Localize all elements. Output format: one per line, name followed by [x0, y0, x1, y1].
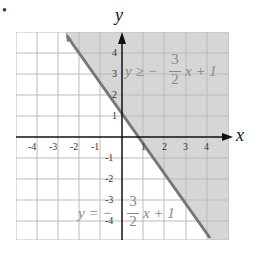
boundary-left: y = −	[78, 205, 112, 222]
x-tick: 4	[204, 142, 209, 152]
x-tick: 2	[162, 142, 167, 152]
inequality-left: y ≥ −	[125, 63, 158, 80]
x-tick: 1	[141, 142, 146, 152]
y-tick: 4	[112, 48, 117, 58]
y-tick: 1	[112, 111, 117, 121]
inequality-num: 3	[169, 52, 181, 66]
x-tick: -3	[49, 142, 57, 152]
x-tick: -4	[28, 142, 36, 152]
y-tick: -1	[105, 153, 113, 163]
y-tick: 2	[112, 90, 117, 100]
x-axis-label: x	[236, 125, 244, 146]
y-tick: -2	[105, 174, 113, 184]
inequality-den: 2	[169, 72, 181, 86]
y-tick: -3	[105, 195, 113, 205]
boundary-right: x + 1	[143, 205, 175, 222]
x-tick: -2	[70, 142, 78, 152]
y-axis-label: y	[115, 5, 123, 26]
x-tick: -1	[91, 142, 99, 152]
y-tick: 3	[112, 69, 117, 79]
x-tick: 3	[183, 142, 188, 152]
inequality-right: x + 1	[185, 63, 217, 80]
boundary-den: 2	[127, 214, 139, 228]
boundary-num: 3	[127, 194, 139, 208]
